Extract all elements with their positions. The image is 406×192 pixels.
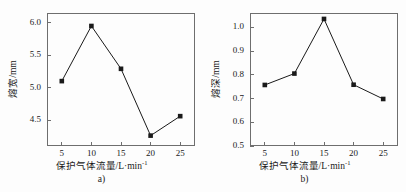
y-tick-mark <box>47 87 51 88</box>
data-point-marker <box>60 79 65 84</box>
x-tick-mark <box>383 142 384 146</box>
x-tick-label: 5 <box>251 148 279 158</box>
y-tick-mark <box>47 120 51 121</box>
x-tick-mark <box>91 142 92 146</box>
series-line <box>265 19 383 99</box>
series-line <box>62 26 180 136</box>
chart-panel-b: 熔深/mm 保护气体流量/L·min-1 b) 0.50.60.70.80.91… <box>203 0 406 192</box>
y-tick-label: 0.6 <box>211 116 244 126</box>
x-tick-label: 5 <box>48 148 76 158</box>
x-tick-mark <box>61 142 62 146</box>
y-tick-label: 4.5 <box>8 114 41 124</box>
data-point-marker <box>322 17 327 22</box>
y-tick-mark <box>250 51 254 52</box>
x-tick-mark <box>264 142 265 146</box>
data-point-marker <box>178 114 183 119</box>
y-tick-label: 6.0 <box>8 17 41 27</box>
y-tick-mark <box>250 122 254 123</box>
x-tick-label: 15 <box>107 148 135 158</box>
y-tick-mark <box>250 146 254 147</box>
y-tick-label: 0.8 <box>211 69 244 79</box>
chart-panel-a: 熔宽/mm 保护气体流量/L·min-1 a) 4.55.05.56.05101… <box>0 0 203 192</box>
x-tick-mark <box>150 142 151 146</box>
x-tick-label: 10 <box>280 148 308 158</box>
y-tick-label: 0.5 <box>211 140 244 150</box>
x-tick-label: 10 <box>77 148 105 158</box>
x-tick-label: 20 <box>340 148 368 158</box>
x-tick-mark <box>180 142 181 146</box>
x-tick-label: 25 <box>166 148 194 158</box>
x-tick-mark <box>121 142 122 146</box>
y-tick-label: 0.9 <box>211 45 244 55</box>
data-point-marker <box>148 133 153 138</box>
y-tick-mark <box>250 98 254 99</box>
data-point-marker <box>89 24 94 29</box>
y-tick-label: 5.5 <box>8 49 41 59</box>
y-tick-label: 1.0 <box>211 21 244 31</box>
y-tick-mark <box>250 27 254 28</box>
data-point-marker <box>351 82 356 87</box>
data-point-marker <box>381 97 386 102</box>
x-tick-mark <box>324 142 325 146</box>
figure-container: 熔宽/mm 保护气体流量/L·min-1 a) 4.55.05.56.05101… <box>0 0 406 192</box>
y-tick-mark <box>47 22 51 23</box>
x-tick-mark <box>294 142 295 146</box>
data-point-marker <box>263 83 268 88</box>
y-tick-label: 0.7 <box>211 93 244 103</box>
data-point-marker <box>119 67 124 72</box>
y-tick-mark <box>47 55 51 56</box>
x-tick-mark <box>353 142 354 146</box>
x-tick-label: 25 <box>369 148 397 158</box>
y-tick-mark <box>250 74 254 75</box>
x-tick-label: 15 <box>310 148 338 158</box>
x-tick-label: 20 <box>137 148 165 158</box>
y-tick-label: 5.0 <box>8 82 41 92</box>
series-layer-a <box>0 0 203 192</box>
data-point-marker <box>292 71 297 76</box>
